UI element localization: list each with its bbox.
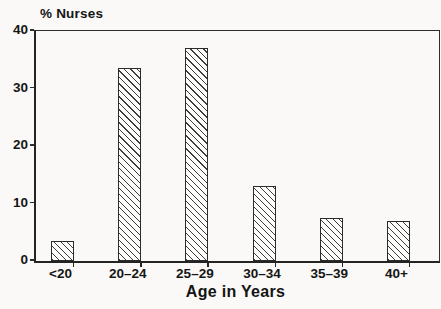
bar-20-24: [118, 68, 141, 261]
bar-35-39: [320, 218, 343, 261]
x-axis-title: Age in Years: [34, 283, 437, 301]
y-tick-mark-20: [30, 144, 34, 146]
y-tick-label-10: 10: [0, 195, 28, 211]
y-tick-label-0: 0: [0, 252, 28, 268]
nurses-age-bar-chart: % Nurses Age in Years 010203040<2020–242…: [0, 0, 441, 309]
x-category-label-30-34: 30–34: [229, 266, 295, 281]
x-category-label-35-39: 35–39: [296, 266, 362, 281]
y-tick-mark-10: [30, 202, 34, 204]
x-category-label-20-24: 20–24: [95, 266, 161, 281]
y-tick-mark-0: [30, 259, 34, 261]
bar-40plus: [387, 221, 410, 261]
bar-25-29: [185, 48, 208, 261]
y-tick-label-40: 40: [0, 22, 28, 38]
y-tick-mark-30: [30, 87, 34, 89]
bar-30-34: [253, 186, 276, 261]
y-axis-header: % Nurses: [40, 6, 103, 21]
x-category-label--20: <20: [28, 266, 94, 281]
bar--20: [51, 241, 74, 261]
x-category-label-40plus: 40+: [364, 266, 430, 281]
x-category-label-25-29: 25–29: [162, 266, 228, 281]
y-tick-mark-40: [30, 29, 34, 31]
plot-area: [34, 30, 440, 263]
y-tick-label-30: 30: [0, 80, 28, 96]
y-tick-label-20: 20: [0, 137, 28, 153]
